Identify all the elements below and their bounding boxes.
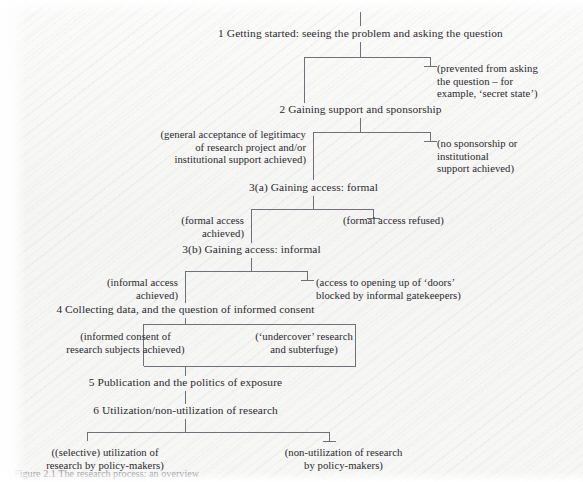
- figure-caption: Figure 2.1 The research process: an over…: [14, 468, 199, 481]
- research-process-flowchart-figure: 1 Getting started: seeing the problem an…: [0, 0, 583, 482]
- outcome-node-formal-access-refused: (formal access refused): [343, 214, 503, 227]
- outcome-node-prevented-from-asking: (prevented from asking the question – fo…: [437, 62, 579, 100]
- stage-node-2: 2 Gaining support and sponsorship: [244, 103, 477, 116]
- outcome-node-formal-access-achieved: (formal access achieved): [157, 214, 244, 239]
- outcome-node-non-utilization: (non-utilization of research by policy-m…: [251, 446, 436, 471]
- stage-node-5: 5 Publication and the politics of exposu…: [69, 376, 302, 389]
- outcome-node-informed-consent: (informed consent of research subjects a…: [40, 330, 211, 355]
- stage-node-6: 6 Utilization/non-utilization of researc…: [75, 404, 296, 417]
- stage-node-3a: 3(a) Gaining access: formal: [224, 181, 403, 194]
- outcome-node-informal-access-achieved: (informal access achieved): [91, 276, 178, 301]
- stage-node-3b: 3(b) Gaining access: informal: [162, 243, 341, 256]
- stage-node-1: 1 Getting started: seeing the problem an…: [214, 27, 507, 40]
- outcome-node-access-blocked: (access to opening up of ‘doors’ blocked…: [316, 276, 526, 301]
- outcome-node-general-acceptance: (general acceptance of legitimacy of res…: [139, 128, 306, 166]
- stage-node-4: 4 Collecting data, and the question of i…: [46, 303, 325, 316]
- outcome-node-no-sponsorship: (no sponsorship or institutional support…: [437, 137, 577, 175]
- outcome-node-undercover-research: (‘undercover’ research and subterfuge): [228, 330, 380, 355]
